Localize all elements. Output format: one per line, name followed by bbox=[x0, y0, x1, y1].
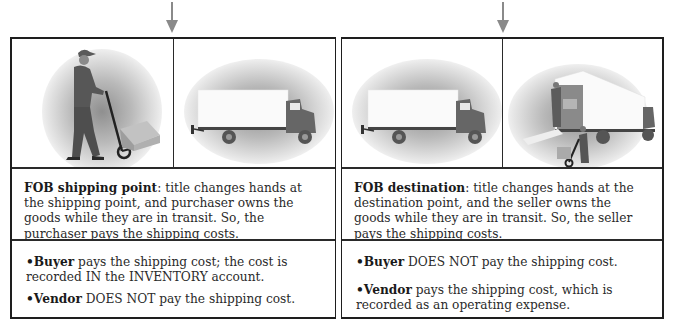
party-label: Buyer bbox=[34, 255, 74, 269]
list-item: •Vendor DOES NOT pay the shipping cost. bbox=[26, 292, 323, 307]
party-label: Buyer bbox=[364, 255, 404, 269]
list-item-text: DOES NOT pay the shipping cost. bbox=[404, 255, 617, 269]
list-item-text: DOES NOT pay the shipping cost. bbox=[82, 292, 295, 306]
fob-shipping-point-panel: FOB shipping point: title changes hands … bbox=[10, 37, 336, 319]
arrow-down-icon bbox=[166, 2, 178, 34]
list-item: •Buyer DOES NOT pay the shipping cost. bbox=[356, 255, 650, 270]
fob-destination-description: FOB destination: title changes hands at … bbox=[342, 169, 662, 241]
image-row bbox=[342, 39, 662, 169]
bullet: • bbox=[356, 283, 364, 297]
truck-unloading-illustration bbox=[502, 39, 663, 167]
delivery-truck-illustration bbox=[173, 39, 335, 167]
list-item: •Buyer pays the shipping cost; the cost … bbox=[26, 255, 323, 285]
bullet: • bbox=[356, 255, 364, 269]
image-row bbox=[12, 39, 335, 169]
bullet: • bbox=[26, 292, 34, 306]
term: FOB destination bbox=[354, 181, 465, 195]
term: FOB shipping point bbox=[24, 181, 157, 195]
responsibility-list: •Buyer pays the shipping cost; the cost … bbox=[12, 241, 335, 317]
arrow-down-icon bbox=[497, 2, 509, 34]
fob-shipping-point-description: FOB shipping point: title changes hands … bbox=[12, 169, 335, 241]
list-item: •Vendor pays the shipping cost, which is… bbox=[356, 283, 650, 313]
bullet: • bbox=[26, 255, 34, 269]
fob-destination-panel: FOB destination: title changes hands at … bbox=[341, 37, 664, 319]
party-label: Vendor bbox=[34, 292, 82, 306]
responsibility-list: •Buyer DOES NOT pay the shipping cost. •… bbox=[342, 241, 662, 317]
party-label: Vendor bbox=[364, 283, 412, 297]
delivery-truck-illustration bbox=[342, 39, 502, 167]
worker-hand-truck-illustration bbox=[12, 39, 173, 167]
